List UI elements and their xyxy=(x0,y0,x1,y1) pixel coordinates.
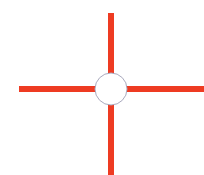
center-circle xyxy=(95,73,127,105)
crosshair-svg xyxy=(0,0,204,175)
crosshair-figure-canvas: Red crosshair with a small white circle … xyxy=(0,0,204,175)
